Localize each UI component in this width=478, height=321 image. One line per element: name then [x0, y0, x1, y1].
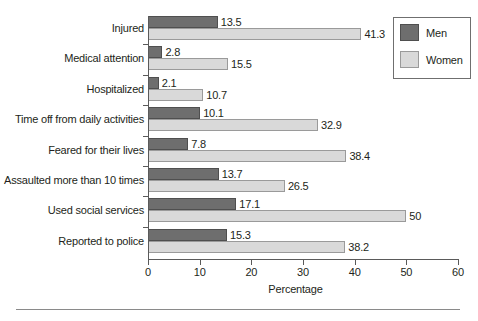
x-axis-tick-label: 10 — [180, 266, 220, 278]
bar-value-label: 15.5 — [231, 58, 252, 70]
y-axis-tick — [143, 136, 149, 137]
bar-value-label: 50 — [409, 210, 421, 222]
bar-men — [148, 107, 200, 119]
y-axis-tick — [143, 105, 149, 106]
y-axis-line — [148, 16, 149, 260]
bar-value-label: 2.1 — [162, 77, 177, 89]
category-label: Assaulted more than 10 times — [4, 174, 144, 186]
legend-swatch-women-icon — [400, 51, 419, 68]
bar-women — [148, 28, 361, 40]
bar-women — [148, 210, 406, 222]
bar-men — [148, 168, 219, 180]
bar-value-label: 38.2 — [348, 241, 369, 253]
chart-legend: Men Women — [393, 17, 471, 79]
bar-value-label: 26.5 — [288, 180, 309, 192]
x-axis-tick — [458, 260, 459, 265]
x-axis-tick — [303, 260, 304, 265]
x-axis-tick — [148, 260, 149, 265]
category-label: Injured — [112, 22, 144, 34]
bar-value-label: 15.3 — [230, 229, 251, 241]
legend-item-women: Women — [400, 51, 463, 68]
y-axis-tick — [143, 44, 149, 45]
bar-men — [148, 77, 159, 89]
bar-men — [148, 46, 162, 58]
category-label: Medical attention — [64, 52, 144, 64]
x-axis-tick — [251, 260, 252, 265]
bar-women — [148, 180, 285, 192]
legend-swatch-men-icon — [400, 24, 419, 41]
bar-value-label: 10.1 — [203, 107, 224, 119]
x-axis-tick-label: 60 — [438, 266, 478, 278]
x-axis-tick-label: 50 — [386, 266, 426, 278]
footer-rule — [16, 309, 460, 310]
legend-label-women: Women — [426, 54, 463, 66]
bar-women — [148, 89, 203, 101]
legend-label-men: Men — [426, 27, 447, 39]
bar-value-label: 32.9 — [321, 119, 342, 131]
bar-women — [148, 241, 345, 253]
x-axis-title: Percentage — [0, 283, 478, 295]
bar-men — [148, 138, 188, 150]
bar-women — [148, 58, 228, 70]
bar-value-label: 38.4 — [349, 150, 370, 162]
bar-value-label: 17.1 — [239, 198, 260, 210]
x-axis-tick — [355, 260, 356, 265]
y-axis-tick — [143, 166, 149, 167]
x-axis-tick — [406, 260, 407, 265]
x-axis-tick-label: 20 — [231, 266, 271, 278]
bar-value-label: 2.8 — [165, 46, 180, 58]
category-label: Time off from daily activities — [15, 113, 144, 125]
x-axis-tick-label: 30 — [283, 266, 323, 278]
legend-item-men: Men — [400, 24, 447, 41]
bar-value-label: 13.5 — [221, 16, 242, 28]
y-axis-tick — [143, 227, 149, 228]
bar-women — [148, 150, 346, 162]
bar-value-label: 13.7 — [222, 168, 243, 180]
category-label: Reported to police — [58, 235, 144, 247]
x-axis-tick-label: 0 — [128, 266, 168, 278]
bar-women — [148, 119, 318, 131]
y-axis-tick — [143, 196, 149, 197]
x-axis-tick — [200, 260, 201, 265]
bar-men — [148, 229, 227, 241]
x-axis-tick-label: 40 — [335, 266, 375, 278]
category-label: Feared for their lives — [48, 144, 144, 156]
bar-men — [148, 198, 236, 210]
category-label: Used social services — [48, 204, 144, 216]
bar-men — [148, 16, 218, 28]
bar-value-label: 7.8 — [191, 138, 206, 150]
bar-value-label: 10.7 — [206, 89, 227, 101]
y-axis-tick — [143, 75, 149, 76]
bar-value-label: 41.3 — [364, 28, 385, 40]
category-label: Hospitalized — [86, 83, 144, 95]
bar-chart-figure: InjuredMedical attentionHospitalizedTime… — [0, 0, 478, 321]
